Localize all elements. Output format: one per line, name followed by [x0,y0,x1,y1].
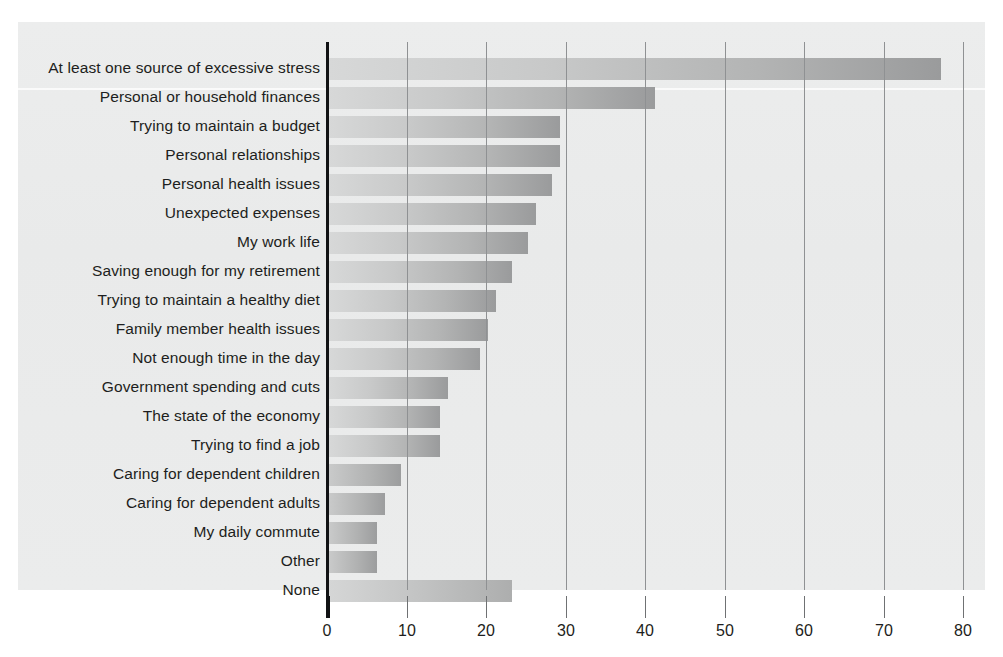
category-label: The state of the economy [0,407,320,425]
gridline-10 [407,42,408,590]
gridline-60 [804,42,805,590]
category-label: My daily commute [0,523,320,541]
bar [329,174,552,196]
category-label: Personal health issues [0,175,320,193]
x-tick-mark-10 [407,596,408,618]
bar-row: Personal relationships [0,143,1003,172]
category-label: Trying to find a job [0,436,320,454]
bar-row: Personal health issues [0,172,1003,201]
bar [329,87,655,109]
category-label: Personal relationships [0,146,320,164]
bar-row: Saving enough for my retirement [0,259,1003,288]
x-tick-label-50: 50 [705,622,745,640]
category-label: None [0,581,320,599]
bar-row: Trying to maintain a budget [0,114,1003,143]
bar-row: Government spending and cuts [0,375,1003,404]
x-tick-label-60: 60 [784,622,824,640]
x-tick-label-40: 40 [625,622,665,640]
bar [329,203,536,225]
x-tick-mark-70 [884,596,885,618]
category-label: Family member health issues [0,320,320,338]
bar [329,377,448,399]
category-label: Saving enough for my retirement [0,262,320,280]
bar [329,232,528,254]
category-label: Personal or household finances [0,88,320,106]
bar-row: At least one source of excessive stress [0,56,1003,85]
bar [329,522,377,544]
bar [329,290,496,312]
x-tick-label-30: 30 [546,622,586,640]
x-tick-label-10: 10 [387,622,427,640]
category-label: Trying to maintain a healthy diet [0,291,320,309]
bar [329,551,377,573]
bar-row: Unexpected expenses [0,201,1003,230]
bar [329,116,560,138]
plot-area: At least one source of excessive stressP… [0,0,1003,657]
gridline-70 [884,42,885,590]
x-tick-label-20: 20 [466,622,506,640]
category-label: Unexpected expenses [0,204,320,222]
category-label: Trying to maintain a budget [0,117,320,135]
bar [329,435,440,457]
x-tick-label-0: 0 [307,622,347,640]
x-tick-mark-20 [486,596,487,618]
bar-row: My work life [0,230,1003,259]
bar-row: My daily commute [0,520,1003,549]
bar-row: Trying to find a job [0,433,1003,462]
bar-row: Caring for dependent adults [0,491,1003,520]
bar-row: None [0,578,1003,607]
bar [329,464,401,486]
bar [329,348,480,370]
bar [329,319,488,341]
bar-row: Personal or household finances [0,85,1003,114]
x-tick-mark-80 [963,596,964,618]
category-label: Government spending and cuts [0,378,320,396]
bar-row: Not enough time in the day [0,346,1003,375]
y-axis-line [326,42,329,618]
bar [329,406,440,428]
category-label: Not enough time in the day [0,349,320,367]
x-tick-mark-50 [725,596,726,618]
x-tick-label-80: 80 [943,622,983,640]
x-tick-mark-0 [327,596,330,618]
x-tick-label-70: 70 [864,622,904,640]
gridline-20 [486,42,487,590]
bar-chart: At least one source of excessive stressP… [0,0,1003,657]
category-label: Caring for dependent adults [0,494,320,512]
x-tick-mark-40 [645,596,646,618]
category-label: At least one source of excessive stress [0,59,320,77]
bar [329,580,512,602]
category-label: Caring for dependent children [0,465,320,483]
bar [329,261,512,283]
bar-row: Family member health issues [0,317,1003,346]
bar [329,493,385,515]
category-label: My work life [0,233,320,251]
category-label: Other [0,552,320,570]
bar [329,145,560,167]
bar [329,58,941,80]
bar-row: Other [0,549,1003,578]
gridline-40 [645,42,646,590]
bar-row: The state of the economy [0,404,1003,433]
x-tick-mark-60 [804,596,805,618]
bar-row: Caring for dependent children [0,462,1003,491]
bar-row: Trying to maintain a healthy diet [0,288,1003,317]
gridline-30 [566,42,567,590]
gridline-50 [725,42,726,590]
x-tick-mark-30 [566,596,567,618]
gridline-80 [963,42,964,590]
